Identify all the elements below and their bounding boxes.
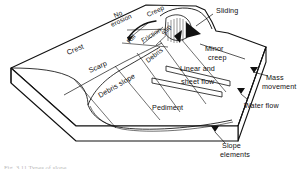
block-outline-group: [11, 5, 268, 143]
label-minor-creep-line2: creep: [208, 53, 226, 62]
label-pediment: Pediment: [152, 103, 183, 112]
figure-caption: Fig. 3.11 Types of slope: [4, 164, 66, 169]
label-linear-and: Linear and: [180, 64, 215, 73]
label-slope-elements-line1: Slope: [222, 141, 241, 150]
label-mass-movement-line2: movement: [262, 82, 296, 91]
block-diagram: No erosion Creep Rill Friction Slip Slid…: [0, 0, 299, 169]
label-minor-creep-line1: Minor: [205, 44, 224, 53]
figure-root: No erosion Creep Rill Friction Slip Slid…: [0, 0, 299, 169]
label-slope-elements-line2: elements: [220, 150, 250, 159]
label-sheet-flow: sheet flow: [181, 77, 215, 86]
label-sliding: Sliding: [216, 6, 238, 15]
label-water-flow: Water flow: [244, 101, 279, 110]
label-mass-movement-line1: Mass: [266, 73, 284, 82]
